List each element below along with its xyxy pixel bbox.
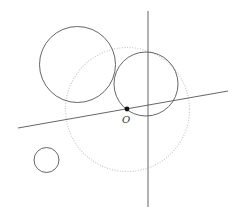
origin-label: O <box>122 114 130 125</box>
origin-point <box>125 107 130 112</box>
geometry-diagram: O <box>0 0 242 220</box>
